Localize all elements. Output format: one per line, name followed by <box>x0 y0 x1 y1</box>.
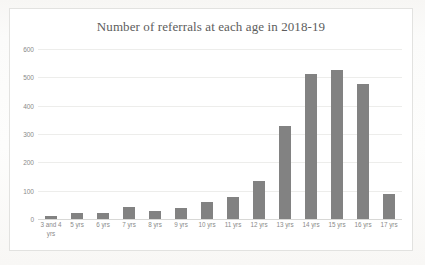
bar-slot <box>246 49 272 219</box>
x-axis-tick-label: 15 yrs <box>324 221 350 238</box>
bar-slot <box>324 49 350 219</box>
y-axis-tick-label: 100 <box>23 187 34 194</box>
x-axis-tick-label: 14 yrs <box>298 221 324 238</box>
bar <box>227 197 239 219</box>
x-axis-tick-label: 13 yrs <box>272 221 298 238</box>
bar <box>97 213 109 219</box>
x-axis-tick-label: 7 yrs <box>116 221 142 238</box>
bar-slot <box>272 49 298 219</box>
x-axis-tick-label: 3 and 4 yrs <box>38 221 64 238</box>
y-axis-tick-label: 500 <box>23 74 34 81</box>
x-axis-tick-label: 9 yrs <box>168 221 194 238</box>
bar-slot <box>142 49 168 219</box>
bar-slot <box>220 49 246 219</box>
bar-slot <box>90 49 116 219</box>
bar-series <box>38 49 402 219</box>
bar <box>331 70 343 219</box>
x-axis-tick-label: 10 yrs <box>194 221 220 238</box>
bar-slot <box>350 49 376 219</box>
chart-container: Number of referrals at each age in 2018-… <box>9 8 413 251</box>
bar <box>253 181 265 219</box>
bar <box>357 84 369 219</box>
x-axis-tick-label: 11 yrs <box>220 221 246 238</box>
y-axis-tick-label: 300 <box>23 131 34 138</box>
bar-slot <box>194 49 220 219</box>
gridline-0: 0 <box>38 219 402 220</box>
bar <box>149 211 161 219</box>
y-axis-tick-label: 0 <box>30 216 34 223</box>
bar-slot <box>116 49 142 219</box>
bar-slot <box>298 49 324 219</box>
chart-title: Number of referrals at each age in 2018-… <box>10 19 412 35</box>
bar-slot <box>38 49 64 219</box>
x-axis-tick-label: 6 yrs <box>90 221 116 238</box>
x-axis-tick-label: 16 yrs <box>350 221 376 238</box>
bar-slot <box>376 49 402 219</box>
plot-area: 6005004003002001000 <box>38 49 402 219</box>
bar <box>123 207 135 219</box>
x-axis-tick-label: 8 yrs <box>142 221 168 238</box>
x-axis-labels: 3 and 4 yrs5 yrs6 yrs7 yrs8 yrs9 yrs10 y… <box>38 221 402 238</box>
bar <box>175 208 187 219</box>
bar <box>383 194 395 219</box>
bar <box>279 126 291 219</box>
screenshot-page: Number of referrals at each age in 2018-… <box>0 0 425 265</box>
bar <box>305 74 317 219</box>
y-axis-tick-label: 200 <box>23 159 34 166</box>
x-axis-tick-label: 5 yrs <box>64 221 90 238</box>
bar <box>201 202 213 219</box>
bar-slot <box>64 49 90 219</box>
bar <box>45 216 57 219</box>
bar <box>71 213 83 219</box>
y-axis-tick-label: 600 <box>23 46 34 53</box>
x-axis-tick-label: 12 yrs <box>246 221 272 238</box>
x-axis-tick-label: 17 yrs <box>376 221 402 238</box>
y-axis-tick-label: 400 <box>23 102 34 109</box>
bar-slot <box>168 49 194 219</box>
